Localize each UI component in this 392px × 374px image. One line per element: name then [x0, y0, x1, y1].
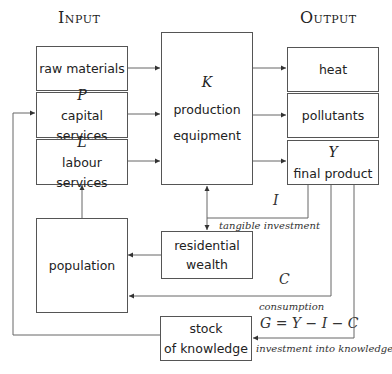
of-knowledge-label: of knowledge — [164, 339, 248, 358]
input-header: Input — [58, 8, 100, 27]
pollutants-box: pollutants — [287, 93, 379, 138]
economy-flow-diagram: Input Output raw materials P capital ser… — [0, 0, 392, 374]
stock-label: stock — [189, 319, 222, 338]
labour-services-box: L labour services — [36, 139, 128, 185]
investment-var-label: I — [273, 192, 279, 208]
capital-stock-var: K — [202, 68, 212, 97]
population-box: population — [36, 218, 128, 313]
consumption-var-label: C — [279, 271, 290, 287]
residential-wealth-box: residential wealth — [161, 231, 253, 279]
stock-of-knowledge-box: stock of knowledge — [160, 316, 252, 361]
labour-var: L — [77, 132, 86, 154]
production-equipment-box: K production equipment — [161, 32, 253, 185]
raw-materials-label: raw materials — [39, 59, 125, 78]
capital-var: P — [77, 85, 86, 107]
tangible-investment-label: tangible investment — [219, 220, 320, 231]
population-label: population — [49, 256, 116, 275]
heat-box: heat — [287, 47, 379, 92]
output-header: Output — [300, 8, 357, 27]
output-var: Y — [328, 142, 337, 164]
investment-into-knowledge-label: investment into knowledge — [256, 343, 392, 354]
final-product-label: final product — [294, 164, 373, 183]
pollutants-label: pollutants — [302, 106, 364, 125]
labour-services-label: labour services — [37, 153, 127, 192]
equipment-label: equipment — [173, 123, 241, 149]
consumption-label: consumption — [259, 301, 324, 312]
heat-label: heat — [319, 60, 347, 79]
final-product-box: Y final product — [287, 140, 379, 185]
knowledge-equation-label: G = Y − I − C — [260, 315, 359, 331]
residential-label: residential — [174, 236, 240, 255]
production-label: production — [173, 97, 240, 123]
wealth-label: wealth — [186, 255, 228, 274]
